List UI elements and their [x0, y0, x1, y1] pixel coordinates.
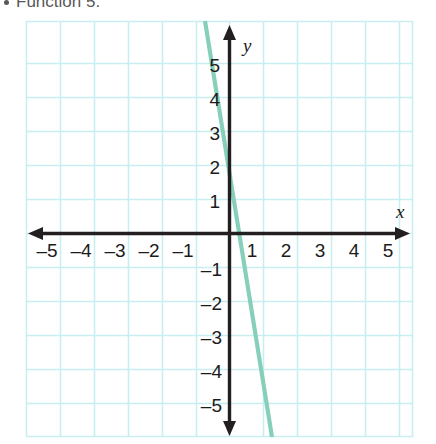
x-tick-label: –1: [172, 240, 193, 261]
x-tick-label: 4: [349, 240, 360, 261]
x-tick-label: 5: [383, 240, 394, 261]
y-tick-label: –5: [201, 395, 222, 416]
x-axis: [28, 227, 410, 240]
y-tick-label: 1: [209, 191, 220, 212]
y-tick-label: –3: [201, 327, 222, 348]
y-tick-label: 2: [209, 157, 220, 178]
x-tick-label: 1: [247, 240, 258, 261]
coordinate-plane-graph: y x –5 –4 –3 –2 –1 1 2 3 4 5 5 4 3 2 1 –…: [0, 0, 436, 444]
x-tick-label: –3: [104, 240, 125, 261]
y-axis-label: y: [241, 35, 252, 56]
x-tick-label: 2: [281, 240, 292, 261]
y-axis: [223, 25, 236, 436]
x-axis-label: x: [395, 201, 405, 222]
x-tick-label: –2: [138, 240, 159, 261]
x-tick-label: 3: [315, 240, 326, 261]
x-tick-label: –4: [70, 240, 92, 261]
y-tick-label: –2: [201, 293, 222, 314]
y-tick-label: 5: [209, 55, 220, 76]
y-tick-label: –4: [201, 361, 223, 382]
x-tick-label: –5: [36, 240, 57, 261]
y-tick-label: 3: [209, 123, 220, 144]
y-tick-label: 4: [209, 89, 220, 110]
y-tick-label: –1: [201, 259, 222, 280]
